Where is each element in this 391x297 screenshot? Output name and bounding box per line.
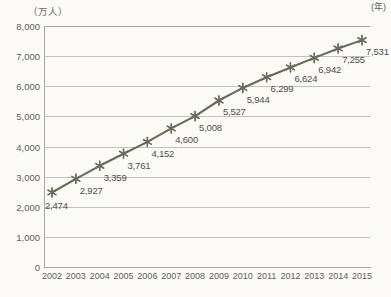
data-point-label: 2,927 [80,184,103,195]
x-axis-tick-label: 2010 [233,271,253,281]
data-point-marker [167,124,175,133]
data-point-label: 3,761 [128,159,151,170]
data-point-label: 2,474 [45,200,68,211]
data-point-label: 6,624 [294,73,317,84]
y-axis-tick-label: 8,000 [4,21,40,32]
data-point-label: 4,600 [175,134,198,145]
data-point-marker [72,174,80,183]
x-axis-tick-label: 2015 [352,271,372,281]
x-axis-tick-label: 2005 [114,271,134,281]
data-point-label: 5,944 [247,93,270,104]
x-axis-tick-label: 2004 [90,271,110,281]
data-series [44,26,370,267]
data-point-marker [96,161,104,170]
x-axis-tick-label: 2006 [137,271,157,281]
x-axis-tick-label: 2013 [304,271,324,281]
plot-area: 2,4742,9273,3593,7614,1524,6005,0085,527… [44,26,370,267]
x-axis-tick-label: 2011 [257,271,276,281]
series-markers [48,36,366,198]
data-point-label: 6,299 [271,83,294,94]
x-axis-tick-label: 2003 [66,271,86,281]
x-axis-tick-label: 2009 [209,271,229,281]
data-point-marker [239,83,247,92]
y-axis-tick-label: 6,000 [4,81,40,92]
x-axis-tick-labels: 2002200320042005200620072008200920102011… [44,271,370,287]
y-axis-tick-label: 4,000 [4,141,40,152]
y-axis-unit-label: （万人） [28,4,68,18]
x-axis-tick-label: 2008 [185,271,205,281]
y-axis-tick-labels: 01,0002,0003,0004,0005,0006,0007,0008,00… [0,26,40,267]
series-line [52,40,362,192]
y-axis-tick-label: 2,000 [4,201,40,212]
data-point-label: 3,359 [104,171,127,182]
data-point-label: 5,527 [223,106,246,117]
data-point-marker [120,149,128,158]
x-axis-tick-label: 2002 [42,271,62,281]
data-point-marker [191,112,199,121]
x-axis-tick-label: 2014 [328,271,348,281]
data-point-label: 7,531 [366,46,389,57]
y-axis-tick-label: 0 [4,262,40,273]
x-axis-tick-label: 2012 [280,271,300,281]
data-point-marker [263,73,271,82]
y-axis-tick-label: 1,000 [4,231,40,242]
x-axis-unit-label: (年) [371,0,386,13]
line-chart: （万人） 01,0002,0003,0004,0005,0006,0007,00… [0,0,391,297]
data-point-marker [143,137,151,146]
x-axis-line [44,267,371,268]
x-axis-tick-label: 2007 [161,271,181,281]
data-point-label: 5,008 [199,122,222,133]
data-point-label: 6,942 [318,63,341,74]
data-point-label: 4,152 [151,147,174,158]
data-point-label: 7,255 [342,54,365,65]
data-point-marker [48,188,56,197]
y-axis-tick-label: 7,000 [4,51,40,62]
data-point-marker [215,96,223,105]
y-axis-tick-label: 5,000 [4,111,40,122]
y-axis-tick-label: 3,000 [4,171,40,182]
